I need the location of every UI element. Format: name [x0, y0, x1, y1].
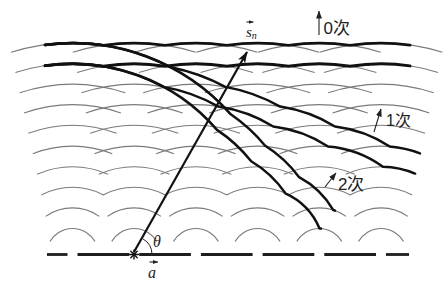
direction-vector-subscript: n [252, 30, 257, 41]
order-0-label: 0次 [324, 19, 350, 38]
angle-label: θ [153, 233, 161, 250]
order-2-label: 2次 [338, 175, 364, 194]
grating-vector-label: a [148, 264, 156, 281]
source-star-icon [130, 250, 139, 259]
order-1-label: 1次 [386, 112, 411, 129]
diffraction-grating-diagram: θ a sn 0次 1次 2次 [0, 0, 448, 290]
